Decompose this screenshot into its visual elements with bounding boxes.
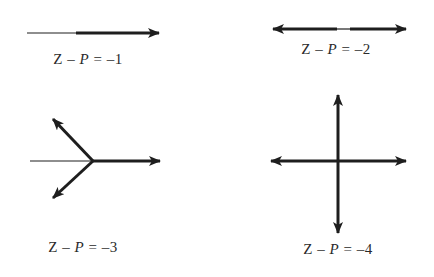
label-p: P xyxy=(330,241,340,257)
label-value: = –2 xyxy=(337,41,370,57)
label-z: Z xyxy=(301,41,311,57)
panel-4-label: Z – P = –4 xyxy=(303,241,372,258)
panel-4-arrows xyxy=(271,95,406,233)
label-p: P xyxy=(80,51,90,67)
label-value: = –1 xyxy=(89,51,122,67)
label-z: Z xyxy=(48,239,58,255)
label-p: P xyxy=(75,239,85,255)
asymptote-diagram: Z – P = –1 Z – P = –2 Z – P = –3 Z – P =… xyxy=(0,0,434,277)
panel-3-label: Z – P = –3 xyxy=(48,239,117,256)
label-z: Z xyxy=(53,51,63,67)
panel-1-label: Z – P = –1 xyxy=(53,51,122,68)
label-minus: – xyxy=(63,51,80,67)
panel-3-arrows xyxy=(30,119,160,198)
label-p: P xyxy=(328,41,338,57)
label-value: = –3 xyxy=(84,239,117,255)
label-minus: – xyxy=(313,241,330,257)
label-value: = –4 xyxy=(339,241,372,257)
label-minus: – xyxy=(58,239,75,255)
arrow-lower-left-icon xyxy=(53,161,93,198)
label-z: Z xyxy=(303,241,313,257)
label-minus: – xyxy=(311,41,328,57)
arrow-upper-left-icon xyxy=(53,119,93,161)
panel-2-label: Z – P = –2 xyxy=(301,41,370,58)
